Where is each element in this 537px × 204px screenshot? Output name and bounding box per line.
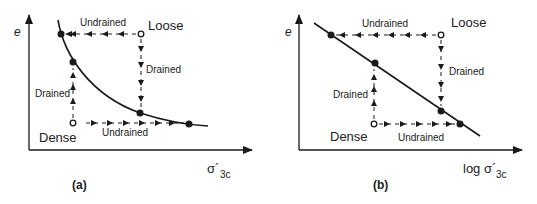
loose-drained-end-point — [137, 110, 144, 117]
label-drained-right: Drained — [146, 64, 181, 75]
drained-arrowheads-left — [70, 72, 76, 104]
panel-b: e log σ´ 3c Undrained Drained Drained Un… — [285, 15, 522, 192]
loose-initial-point — [138, 31, 144, 37]
label-undrained-bottom: Undrained — [102, 127, 148, 138]
dense-undrained-end-point — [186, 121, 193, 128]
label-loose: Loose — [148, 18, 183, 33]
cvr-line — [314, 23, 480, 136]
panel-a: e σ´ 3c Undrained Drained Drained Undrai… — [14, 15, 252, 192]
loose-drained-end-point — [438, 108, 445, 115]
y-axis-label: e — [14, 25, 21, 39]
label-undrained-top: Undrained — [80, 17, 126, 28]
loose-undrained-end-point — [58, 31, 65, 38]
label-dense: Dense — [39, 130, 77, 145]
label-loose: Loose — [451, 15, 486, 30]
drained-arrowheads-left — [371, 74, 377, 106]
x-axis-subscript: 3c — [496, 169, 507, 180]
dense-drained-end-point — [70, 59, 77, 66]
x-axis-label: log σ´ — [463, 161, 496, 176]
caption-a: (a) — [72, 178, 87, 192]
loose-initial-point — [438, 32, 444, 38]
label-drained-left: Drained — [35, 88, 70, 99]
cvr-curve — [58, 20, 208, 126]
caption-b: (b) — [373, 178, 388, 192]
x-axis-label: σ´ — [207, 161, 219, 176]
label-undrained-top: Undrained — [362, 18, 408, 29]
label-drained-right: Drained — [449, 66, 484, 77]
label-drained-left: Drained — [333, 89, 368, 100]
dense-initial-point — [371, 121, 377, 127]
critical-void-ratio-diagram: e σ´ 3c Undrained Drained Drained Undrai… — [0, 0, 537, 204]
dense-undrained-end-point — [457, 121, 464, 128]
label-undrained-bottom: Undrained — [398, 132, 444, 143]
x-axis-subscript: 3c — [220, 169, 231, 180]
loose-undrained-end-point — [328, 32, 335, 39]
dense-initial-point — [70, 120, 76, 126]
undrained-arrowheads-bottom — [384, 121, 452, 127]
y-axis-label: e — [285, 25, 292, 39]
dense-drained-end-point — [372, 60, 379, 67]
label-dense: Dense — [330, 129, 368, 144]
